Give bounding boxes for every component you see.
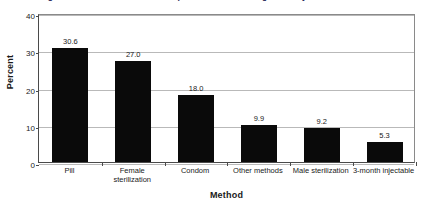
- y-tick-label-10: 10: [26, 123, 35, 132]
- bar-value-label: 9.9: [254, 114, 264, 123]
- bar-slot: 9.2: [290, 15, 353, 162]
- x-tick-label: Condom: [164, 166, 227, 175]
- bar[interactable]: [178, 95, 214, 162]
- bar-slot: 9.9: [228, 15, 291, 162]
- bar-slot: 18.0: [165, 15, 228, 162]
- bars: 30.627.018.09.99.25.3: [39, 15, 414, 162]
- bar-value-label: 30.6: [63, 37, 78, 46]
- y-tick-label-20: 20: [26, 86, 35, 95]
- bar[interactable]: [367, 142, 403, 162]
- bar-chart: Figure 1: Current use of contraceptive m…: [0, 0, 427, 205]
- bar-value-label: 5.3: [379, 131, 389, 140]
- x-tick-label-line: Pill: [38, 166, 101, 175]
- x-tick-label: Pill: [38, 166, 101, 175]
- y-tick-label-30: 30: [26, 49, 35, 58]
- chart-title: Figure 1: Current use of contraceptive m…: [40, 0, 400, 3]
- x-tick-label-line: Male sterilization: [289, 166, 352, 175]
- x-tick-label-line: Female: [101, 166, 164, 175]
- x-tick-label-line: sterilization: [101, 175, 164, 184]
- x-tick-label: 3-month injectable: [352, 166, 415, 175]
- x-tick-mark: [416, 162, 417, 166]
- y-tick-label-40: 40: [26, 12, 35, 21]
- x-tick-label-line: Other methods: [227, 166, 290, 175]
- x-tick-label: Femalesterilization: [101, 166, 164, 184]
- bar-value-label: 18.0: [189, 84, 204, 93]
- bar[interactable]: [115, 61, 151, 162]
- bar[interactable]: [241, 125, 277, 162]
- bar[interactable]: [52, 48, 88, 162]
- x-tick-label: Male sterilization: [289, 166, 352, 175]
- bar-slot: 27.0: [102, 15, 165, 162]
- bar-slot: 5.3: [353, 15, 416, 162]
- bar-value-label: 9.2: [317, 117, 327, 126]
- y-axis-title: Percent: [5, 36, 15, 108]
- x-axis-tick-labels: PillFemalesterilizationCondomOther metho…: [38, 166, 415, 190]
- bar[interactable]: [304, 128, 340, 162]
- x-axis-title: Method: [38, 190, 415, 200]
- bar-slot: 30.6: [39, 15, 102, 162]
- x-tick-label-line: 3-month injectable: [352, 166, 415, 175]
- x-tick-label-line: Condom: [164, 166, 227, 175]
- bar-value-label: 27.0: [126, 50, 141, 59]
- plot-area: 010203040 30.627.018.09.99.25.3: [38, 14, 415, 163]
- x-tick-label: Other methods: [227, 166, 290, 175]
- y-tick-label-0: 0: [31, 161, 35, 170]
